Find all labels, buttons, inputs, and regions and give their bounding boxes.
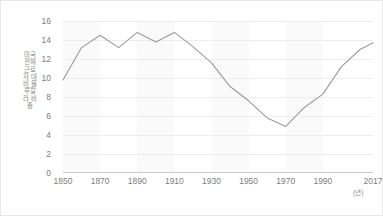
x-tick-label: 2017 — [364, 176, 383, 186]
x-tick-label: 1910 — [165, 176, 184, 186]
x-tick-label: 1990 — [313, 176, 332, 186]
chart-figure: 0246810121416 미국 전체 근로자 대비 블루칼라 비중 18501… — [0, 0, 383, 216]
y-tick-label: 2 — [46, 149, 51, 159]
y-tick-label: 0 — [46, 168, 51, 178]
x-tick-label: 1970 — [276, 176, 295, 186]
x-axis-tick-labels: 185018701890191019301950197019902017 — [63, 176, 373, 190]
y-tick-label: 14 — [42, 35, 51, 45]
y-tick-label: 16 — [42, 16, 51, 26]
y-tick-label: 4 — [46, 130, 51, 140]
x-tick-label: 1870 — [91, 176, 110, 186]
x-tick-label: 1950 — [239, 176, 258, 186]
series-polyline — [63, 32, 373, 126]
y-tick-label: 10 — [42, 73, 51, 83]
x-tick-label: 1890 — [128, 176, 147, 186]
y-tick-label: 8 — [46, 92, 51, 102]
x-tick-label: 1850 — [54, 176, 73, 186]
x-tick-label: 1930 — [202, 176, 221, 186]
y-tick-label: 12 — [42, 54, 51, 64]
plot-area — [63, 21, 373, 173]
x-axis-unit-label: (년) — [353, 187, 363, 197]
data-line-series — [63, 21, 373, 173]
y-tick-label: 6 — [46, 111, 51, 121]
y-axis-title: 미국 전체 근로자 대비 블루칼라 비중 — [23, 51, 37, 109]
